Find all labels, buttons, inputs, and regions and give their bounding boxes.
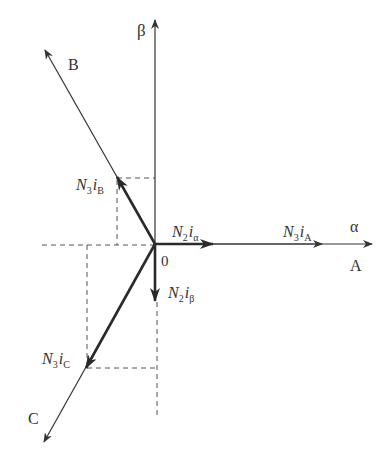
- projection-lines: [42, 178, 157, 416]
- n2ialpha-label: N2iα: [171, 223, 199, 243]
- n3ib-label: N3iB: [75, 176, 104, 196]
- n3ib-vector: [117, 177, 155, 244]
- n3ic-vector: [86, 244, 155, 368]
- b-label: B: [68, 56, 79, 73]
- n2ibeta-label: N2iβ: [167, 284, 194, 304]
- n3ic-label: N3iC: [41, 350, 70, 370]
- a-label: A: [350, 257, 362, 274]
- origin-label: 0: [161, 253, 169, 269]
- beta-label: β: [137, 21, 146, 40]
- alpha-label: α: [350, 218, 359, 235]
- n3ia-label: N3iA: [282, 223, 312, 243]
- c-label: C: [28, 410, 39, 427]
- vector-diagram: β B α A 0 C N3iB N2iα N3iA N2iβ N3iC: [0, 0, 383, 459]
